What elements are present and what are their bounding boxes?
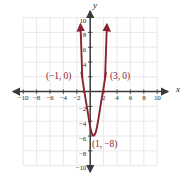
y-tick-label: −2 xyxy=(68,106,86,113)
annotation-vertex: (1, −8) xyxy=(92,140,117,150)
x-tick-label: −6 xyxy=(46,95,53,102)
x-tick-label: 8 xyxy=(142,95,145,102)
graph-figure: −10 −8 −6 −4 −2 2 4 6 8 10 10 8 6 4 −2 −… xyxy=(0,0,190,176)
x-tick-label: 10 xyxy=(154,95,161,102)
x-tick-label: −10 xyxy=(18,95,28,102)
y-tick-label: 8 xyxy=(68,32,86,39)
y-tick-label: 4 xyxy=(68,61,86,68)
annotation-root-right: (3, 0) xyxy=(110,72,130,82)
y-tick-label: −4 xyxy=(68,121,86,128)
y-tick-label: −6 xyxy=(68,135,86,142)
x-tick-label: −4 xyxy=(60,95,67,102)
x-tick-label: −8 xyxy=(33,95,40,102)
x-axis-label: x xyxy=(176,85,180,94)
x-tick-label: 6 xyxy=(129,95,132,102)
x-tick-label: −2 xyxy=(73,95,80,102)
x-tick-label: 4 xyxy=(115,95,118,102)
x-tick-label: 2 xyxy=(102,95,105,102)
y-tick-label: 6 xyxy=(68,47,86,54)
coordinate-plane xyxy=(0,0,190,176)
y-tick-label: 10 xyxy=(68,17,86,24)
y-axis-label: y xyxy=(93,1,97,10)
y-tick-label: −8 xyxy=(68,150,86,157)
annotation-root-left: (−1, 0) xyxy=(46,72,71,82)
y-tick-label: −10 xyxy=(68,165,86,172)
